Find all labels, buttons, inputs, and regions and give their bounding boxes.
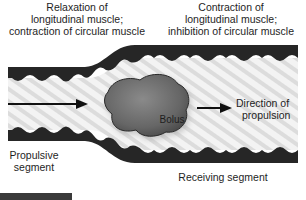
bolus <box>105 74 189 136</box>
direction-caption: Direction of propulsion <box>236 97 306 121</box>
propulsive-segment-caption: Propulsive segment <box>4 149 64 173</box>
bolus-label: Bolus <box>152 114 192 126</box>
bottom-bar <box>0 193 72 200</box>
receiving-segment-caption: Receiving segment <box>168 171 278 183</box>
